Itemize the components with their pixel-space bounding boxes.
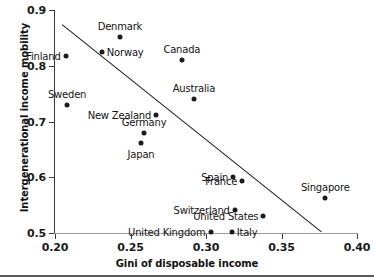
- y-tick: [49, 122, 54, 123]
- data-point-label: Germany: [122, 117, 167, 128]
- x-tick-label: 0.30: [193, 241, 219, 254]
- data-point[interactable]: [323, 195, 328, 200]
- y-tick: [49, 66, 54, 67]
- x-tick-label: 0.40: [344, 241, 370, 254]
- scatter-chart: 0.200.250.300.350.40 0.50.60.70.80.9 Fin…: [0, 0, 374, 278]
- x-tick: [357, 234, 358, 239]
- data-point[interactable]: [261, 213, 266, 218]
- x-tick-label: 0.35: [268, 241, 294, 254]
- data-point[interactable]: [229, 229, 234, 234]
- data-point-label: Canada: [163, 44, 200, 55]
- x-tick: [282, 234, 283, 239]
- x-tick: [55, 234, 56, 239]
- data-point-label: Denmark: [98, 21, 143, 32]
- data-point[interactable]: [117, 35, 122, 40]
- data-point[interactable]: [240, 179, 245, 184]
- x-axis-title: Gini of disposable income: [0, 258, 374, 269]
- x-tick-label: 0.25: [117, 241, 143, 254]
- data-point[interactable]: [65, 103, 70, 108]
- data-point-label: United Kingdom: [128, 226, 205, 237]
- y-tick: [49, 177, 54, 178]
- plot-area: FinlandDenmarkNorwayCanadaSwedenAustrali…: [55, 10, 357, 233]
- data-point[interactable]: [179, 58, 184, 63]
- data-point[interactable]: [139, 140, 144, 145]
- data-point[interactable]: [208, 229, 213, 234]
- data-point-label: United States: [193, 210, 258, 221]
- y-axis-title: Intergenerational income mobility: [19, 0, 30, 238]
- data-point-label: Japan: [128, 149, 155, 160]
- data-point[interactable]: [191, 96, 196, 101]
- data-point[interactable]: [99, 50, 104, 55]
- data-point-label: Italy: [237, 226, 258, 237]
- bottom-rule: [0, 275, 374, 277]
- data-point-label: Finland: [26, 51, 60, 62]
- y-tick: [49, 10, 54, 11]
- y-tick: [49, 233, 54, 234]
- x-tick-label: 0.20: [42, 241, 68, 254]
- data-point-label: Norway: [107, 47, 144, 58]
- data-point-label: Sweden: [48, 89, 86, 100]
- data-point-label: Singapore: [301, 182, 350, 193]
- data-point-label: Australia: [173, 83, 215, 94]
- data-point[interactable]: [63, 54, 68, 59]
- x-tick: [206, 234, 207, 239]
- data-point-label: France: [205, 176, 237, 187]
- data-point[interactable]: [142, 130, 147, 135]
